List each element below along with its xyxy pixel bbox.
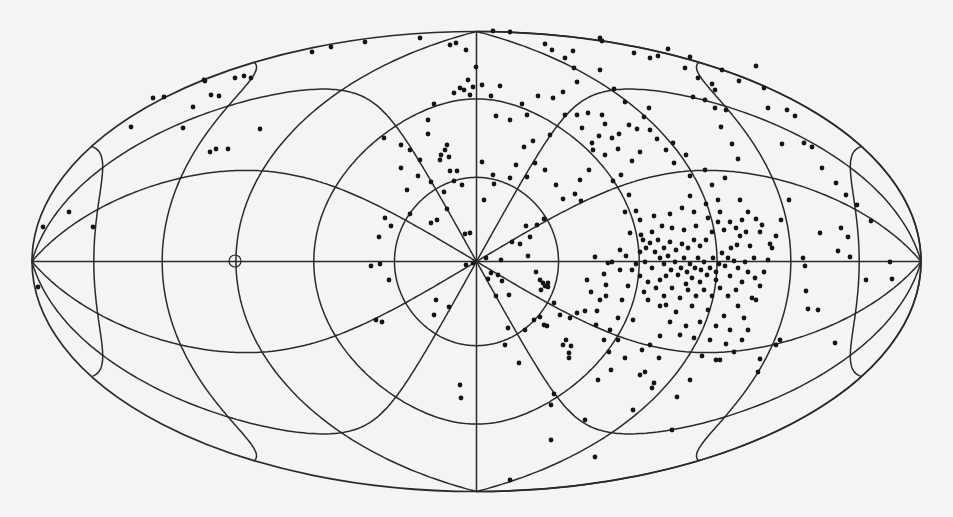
data-point: [597, 134, 602, 139]
data-point: [532, 318, 537, 323]
data-point: [774, 343, 779, 348]
data-point: [587, 168, 592, 173]
data-point: [723, 176, 728, 181]
data-point: [585, 278, 590, 283]
data-point: [383, 216, 388, 221]
sky-map-figure: [0, 0, 953, 517]
data-point: [729, 246, 734, 251]
data-point: [685, 270, 690, 275]
data-point: [648, 241, 653, 246]
data-point: [754, 217, 759, 222]
data-point: [743, 260, 748, 265]
data-point: [642, 115, 647, 120]
data-point: [736, 266, 741, 271]
data-point: [688, 174, 693, 179]
data-point: [640, 348, 645, 353]
data-point: [668, 240, 673, 245]
data-point: [550, 48, 555, 53]
data-point: [802, 141, 807, 146]
data-point: [620, 298, 625, 303]
data-point: [690, 276, 695, 281]
data-point: [713, 106, 718, 111]
data-point: [675, 395, 680, 400]
data-point: [612, 87, 617, 92]
data-point: [710, 183, 715, 188]
data-point: [630, 268, 635, 273]
data-point: [380, 320, 385, 325]
data-point: [662, 262, 667, 267]
data-point: [564, 338, 569, 343]
data-point: [710, 294, 715, 299]
data-point: [728, 328, 733, 333]
data-point: [468, 93, 473, 98]
data-point: [657, 356, 662, 361]
data-point: [719, 125, 724, 130]
data-point: [672, 161, 677, 166]
data-point: [656, 238, 661, 243]
data-point: [652, 214, 657, 219]
data-point: [652, 381, 657, 386]
data-point: [549, 403, 554, 408]
data-point: [494, 114, 499, 119]
data-point: [643, 370, 648, 375]
data-point: [708, 266, 713, 271]
data-point: [658, 304, 663, 309]
data-point: [528, 235, 533, 240]
data-point: [780, 142, 785, 147]
data-point: [718, 286, 723, 291]
data-point: [698, 280, 703, 285]
data-point: [804, 289, 809, 294]
data-point: [718, 358, 723, 363]
data-point: [389, 224, 394, 229]
data-point: [650, 386, 655, 391]
data-point: [552, 301, 557, 306]
data-point: [686, 246, 691, 251]
data-point: [869, 219, 874, 224]
data-point: [654, 286, 659, 291]
data-point: [726, 294, 731, 299]
data-point: [460, 183, 465, 188]
data-point: [632, 51, 637, 56]
data-point: [610, 260, 615, 265]
data-point: [722, 228, 727, 233]
data-point: [848, 255, 853, 260]
data-point: [382, 136, 387, 141]
data-point: [549, 438, 554, 443]
data-point: [543, 168, 548, 173]
data-point: [623, 356, 628, 361]
data-point: [567, 356, 572, 361]
data-point: [466, 78, 471, 83]
data-point: [258, 127, 263, 132]
data-point: [525, 175, 530, 180]
data-point: [638, 150, 643, 155]
data-point: [844, 193, 849, 198]
data-point: [387, 278, 392, 283]
data-point: [658, 334, 663, 339]
data-point: [716, 220, 721, 225]
data-point: [480, 83, 485, 88]
data-point: [746, 270, 751, 275]
data-point: [508, 176, 513, 181]
data-point: [489, 94, 494, 99]
data-point: [684, 324, 689, 329]
data-point: [329, 45, 334, 50]
data-point: [583, 418, 588, 423]
data-point: [728, 220, 733, 225]
data-point: [408, 148, 413, 153]
data-point: [638, 218, 643, 223]
data-point: [631, 318, 636, 323]
data-point: [674, 310, 679, 315]
data-point: [833, 341, 838, 346]
data-point: [740, 338, 745, 343]
data-point: [510, 240, 515, 245]
data-point: [546, 285, 551, 290]
data-point: [616, 316, 621, 321]
data-point: [609, 368, 614, 373]
data-point: [682, 256, 687, 261]
data-point: [369, 264, 374, 269]
data-point: [548, 133, 553, 138]
data-point: [545, 324, 550, 329]
data-point: [658, 278, 663, 283]
data-point: [432, 313, 437, 318]
data-point: [464, 48, 469, 53]
